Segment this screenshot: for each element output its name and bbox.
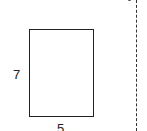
width-label: 5 xyxy=(57,122,64,131)
dashed-divider-line xyxy=(136,0,137,131)
edge-mark xyxy=(128,0,131,1)
height-label: 7 xyxy=(13,68,20,81)
rectangle-shape xyxy=(29,29,94,117)
